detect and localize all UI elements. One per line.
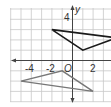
y-axis-arrow-down-icon [71,98,75,103]
x-axis-arrow-icon [11,59,16,63]
y-axis-label: y [74,4,81,15]
grid [10,8,111,102]
coordinate-plane: y 4 -4 -2 O 2 [0,0,111,107]
axes [11,5,111,103]
x-tick-neg4: -4 [25,63,34,74]
x-tick-2: 2 [90,63,96,74]
y-axis-arrow-up-icon [71,5,75,10]
labels: y 4 -4 -2 O 2 [25,4,96,74]
y-tick-4: 4 [64,12,70,23]
